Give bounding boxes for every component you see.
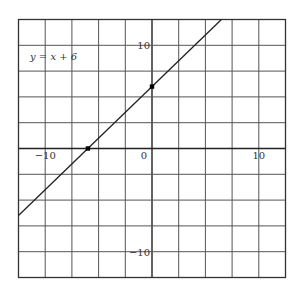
x-tick-label: −10 bbox=[35, 150, 56, 161]
line-y-equals-x-plus-6 bbox=[19, 20, 222, 216]
equation-label: y = x + 6 bbox=[29, 51, 78, 62]
x-tick-label: 0 bbox=[141, 150, 147, 161]
y-tick-label: −10 bbox=[129, 247, 150, 258]
coordinate-plane: y = x + 6 −1001010−10 bbox=[0, 0, 297, 293]
data-point bbox=[86, 146, 90, 150]
data-point bbox=[150, 84, 154, 88]
y-tick-label: 10 bbox=[137, 40, 150, 51]
x-tick-label: 10 bbox=[252, 150, 265, 161]
